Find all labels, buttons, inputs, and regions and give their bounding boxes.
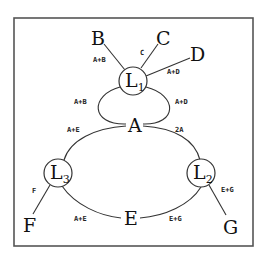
edge-label-l1-d: A+D bbox=[167, 68, 180, 76]
leaf-d: D bbox=[190, 43, 205, 65]
edge-label-l2-g: E+G bbox=[221, 186, 234, 194]
leaf-c: C bbox=[156, 27, 171, 49]
node-l1: L1 bbox=[119, 67, 147, 95]
leaf-g: G bbox=[223, 216, 238, 238]
edge-label-l1-a-right: A+D bbox=[175, 98, 188, 106]
edge-l1-a-left bbox=[98, 87, 126, 124]
edge-label-l1-c: C bbox=[140, 49, 144, 57]
node-e: E bbox=[124, 207, 138, 229]
edge-l1-a-right bbox=[143, 87, 170, 124]
edge-label-e-l2: E+G bbox=[169, 215, 182, 223]
node-l2: L2 bbox=[187, 159, 215, 187]
leaf-f: F bbox=[23, 214, 36, 236]
edge-a-l2 bbox=[143, 126, 200, 160]
edge-l1-b bbox=[104, 44, 125, 70]
edge-label-a-l3: A+E bbox=[67, 126, 80, 134]
node-l3: L3 bbox=[44, 159, 72, 187]
edge-label-l3-e: A+E bbox=[74, 215, 87, 223]
edge-label-a-l2: 2A bbox=[175, 126, 184, 134]
edge-e-l2 bbox=[140, 187, 201, 218]
edge-l3-e bbox=[62, 186, 121, 218]
leaf-b: B bbox=[91, 27, 105, 49]
edge-label-l1-b: A+B bbox=[93, 56, 106, 64]
edge-label-l3-f: F bbox=[32, 187, 36, 195]
edge-label-l1-a-left: A+B bbox=[74, 98, 87, 106]
diagram-canvas: L1 L3 L2 A E B C D F G A+B C A+D A+B A+D… bbox=[0, 0, 268, 260]
node-a: A bbox=[127, 114, 142, 136]
